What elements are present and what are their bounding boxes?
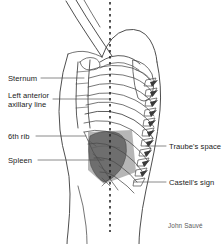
arm-lower-edge (76, 0, 112, 56)
artist-signature: John Sauvé (168, 222, 203, 229)
sternum-segment-3 (76, 95, 88, 96)
scapula (133, 60, 154, 101)
label-spleen: Spleen (8, 156, 32, 165)
arm-upper-edge (66, 1, 102, 57)
rib-1 (90, 65, 150, 80)
label-6th-rib: 6th rib (8, 132, 29, 141)
spinous-processes (140, 80, 158, 177)
label-sternum: Sternum (8, 74, 37, 83)
anatomical-diagram-figure: Sternum Left anterior axillary line 6th … (0, 0, 224, 244)
sternum-segment-1 (77, 71, 89, 72)
sternum-segment-2 (76, 83, 88, 84)
label-left-anterior-axillary-line-row1: Left anterior (8, 91, 49, 100)
arm-inner-crease (84, 0, 100, 27)
label-traube-space: Traube's space (169, 142, 221, 151)
front-abdomen-contour (59, 54, 70, 244)
sternum-segment-4 (76, 107, 88, 108)
axilla-hollow (68, 51, 102, 57)
torso-illustration (0, 0, 224, 244)
belly-fold (78, 186, 87, 244)
rib-2 (89, 74, 152, 92)
label-castell-sign: Castell's sign (169, 178, 214, 187)
label-left-anterior-axillary-line-row2: axillary line (8, 100, 46, 109)
